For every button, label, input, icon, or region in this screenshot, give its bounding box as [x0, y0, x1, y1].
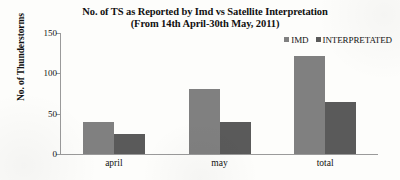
y-tick-label: 0 — [53, 149, 58, 159]
y-tick-label: 50 — [48, 109, 57, 119]
plot-area: 050100150 — [60, 33, 378, 155]
y-tick-label: 100 — [44, 68, 58, 78]
y-tick-label: 150 — [44, 28, 58, 38]
bar-imd-april — [83, 122, 114, 154]
bar-group — [61, 33, 167, 154]
y-axis-title: No. of Thunderstorms — [16, 0, 26, 122]
x-axis-line — [60, 154, 378, 155]
bar-imd-may — [189, 89, 220, 154]
chart-title: No. of TS as Reported by Imd vs Satellit… — [40, 6, 370, 18]
chart-subtitle: (From 14th April-30th May, 2011) — [40, 18, 370, 30]
bar-interpretated-total — [325, 102, 356, 154]
chart-title-block: No. of TS as Reported by Imd vs Satellit… — [40, 6, 370, 30]
x-axis-label-april: april — [61, 158, 167, 168]
thunderstorm-bar-chart: No. of TS as Reported by Imd vs Satellit… — [0, 0, 400, 180]
x-axis-label-total: total — [272, 158, 378, 168]
bar-imd-total — [294, 56, 325, 154]
y-tick: 0 — [60, 154, 64, 155]
x-axis-label-may: may — [167, 158, 273, 168]
bar-interpretated-april — [114, 134, 145, 154]
bar-group — [272, 33, 378, 154]
bar-groups — [61, 33, 378, 154]
bar-group — [167, 33, 273, 154]
x-axis-category-labels: aprilmaytotal — [61, 158, 378, 168]
bar-interpretated-may — [220, 122, 251, 154]
